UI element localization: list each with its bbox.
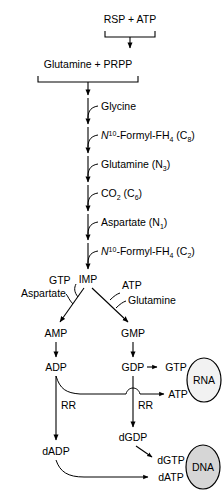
- branch-label-atp: ATP: [122, 279, 142, 291]
- node-atp-to-rna: ATP: [168, 388, 188, 400]
- node-amp: AMP: [45, 327, 68, 339]
- formyl-c8-main: -Formyl-FH: [116, 129, 169, 141]
- co2-suffix: (C: [121, 187, 135, 199]
- co2-main: CO: [101, 187, 117, 199]
- step-label-formyl-fh4-c2: N10-Formyl-FH4 (C2): [101, 245, 195, 259]
- formyl-c8-sup: 10: [109, 130, 117, 137]
- formyl-c8-suffix2: ): [191, 129, 195, 141]
- node-datp: dATP: [158, 471, 183, 483]
- hook-aspartate: [66, 294, 73, 304]
- hook-glutamine-n3: [88, 164, 98, 176]
- step-label-formyl-fh4-c8: N10-Formyl-FH4 (C8): [101, 129, 195, 143]
- co2-suffix2: ): [139, 187, 143, 199]
- hook-glycine: [88, 106, 98, 118]
- aspartate-n1-main: Aspartate (N: [101, 216, 160, 228]
- arrow-dgdp-to-dgtp: [136, 446, 152, 457]
- pathway-diagram: RSP + ATP Glutamine + PRPP Glycine N10-F…: [0, 0, 223, 492]
- enzyme-label-rr-left: RR: [61, 399, 77, 411]
- node-dadp: dADP: [42, 445, 69, 457]
- node-adp: ADP: [45, 361, 67, 373]
- node-glutamine-prpp: Glutamine + PRPP: [44, 58, 132, 70]
- hook-atp: [110, 293, 120, 300]
- enzyme-label-rr-right: RR: [138, 399, 154, 411]
- hook-formyl-c8: [88, 135, 98, 147]
- node-imp: IMP: [79, 273, 98, 285]
- glutamine-n3-suffix: ): [167, 158, 171, 170]
- node-dgdp: dGDP: [119, 431, 148, 443]
- step-label-glycine: Glycine: [101, 100, 136, 112]
- aspartate-n1-suffix: ): [164, 216, 168, 228]
- hook-co2-c6: [88, 193, 98, 205]
- branch-label-aspartate: Aspartate: [21, 287, 66, 299]
- node-rsp-atp: RSP + ATP: [104, 13, 156, 25]
- branch-label-gtp: GTP: [49, 274, 71, 286]
- node-dna: DNA: [192, 461, 214, 473]
- bracket-rsp-atp: [105, 31, 155, 37]
- formyl-c8-suffix: (C: [173, 129, 187, 141]
- formyl-c2-sup: 10: [109, 246, 117, 253]
- step-label-aspartate-n1: Aspartate (N1): [101, 216, 167, 230]
- hook-aspartate-n1: [88, 222, 98, 234]
- node-rna: RNA: [193, 374, 215, 386]
- node-dgtp: dGTP: [157, 454, 184, 466]
- curve-adp-to-atp: [56, 376, 126, 394]
- formyl-c2-suffix2: ): [191, 245, 195, 257]
- hook-formyl-c2: [88, 251, 98, 263]
- branch-label-glutamine: Glutamine: [128, 294, 176, 306]
- bracket-glutamine-prpp: [38, 76, 138, 82]
- node-gtp: GTP: [165, 361, 187, 373]
- step-label-glutamine-n3: Glutamine (N3): [101, 158, 170, 172]
- formyl-c2-suffix: (C: [173, 245, 187, 257]
- formyl-c2-main: -Formyl-FH: [116, 245, 169, 257]
- hook-glutamine: [116, 301, 126, 308]
- node-gmp: GMP: [121, 327, 145, 339]
- arrow-imp-to-gmp: [92, 288, 128, 322]
- step-label-co2-c6: CO2 (C6): [101, 187, 142, 201]
- hook-gtp: [75, 284, 78, 297]
- curve-dadp-to-datp: [56, 460, 148, 477]
- glutamine-n3-main: Glutamine (N: [101, 158, 163, 170]
- node-gdp: GDP: [122, 361, 145, 373]
